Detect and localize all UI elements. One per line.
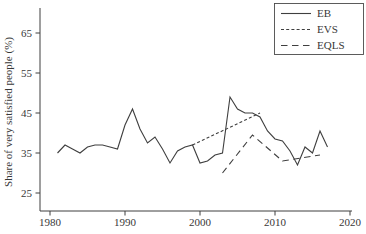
legend-label-evs: EVS [317,23,338,35]
y-tick-label: 25 [21,187,33,199]
chart: 253545556519801990200020102020 Share of … [0,0,366,234]
y-tick-label: 35 [21,147,33,159]
y-axis-title: Share of very satisfied people (%) [2,37,15,187]
plot-area: 253545556519801990200020102020 [21,27,362,229]
x-tick-label: 2000 [189,216,212,228]
x-tick-label: 1980 [39,216,62,228]
x-tick-label: 1990 [114,216,137,228]
series-line-evs [193,113,261,145]
series-line-eb [58,97,328,165]
series-line-eqls [223,135,321,173]
x-tick-label: 2020 [339,216,362,228]
x-tick-label: 2010 [264,216,287,228]
legend: EB EVS EQLS [275,4,364,55]
chart-figure: 253545556519801990200020102020 Share of … [0,0,366,234]
y-tick-label: 45 [21,107,33,119]
legend-label-eqls: EQLS [317,39,345,51]
y-tick-label: 65 [21,27,33,39]
y-tick-label: 55 [21,67,33,79]
legend-label-eb: EB [317,7,331,19]
